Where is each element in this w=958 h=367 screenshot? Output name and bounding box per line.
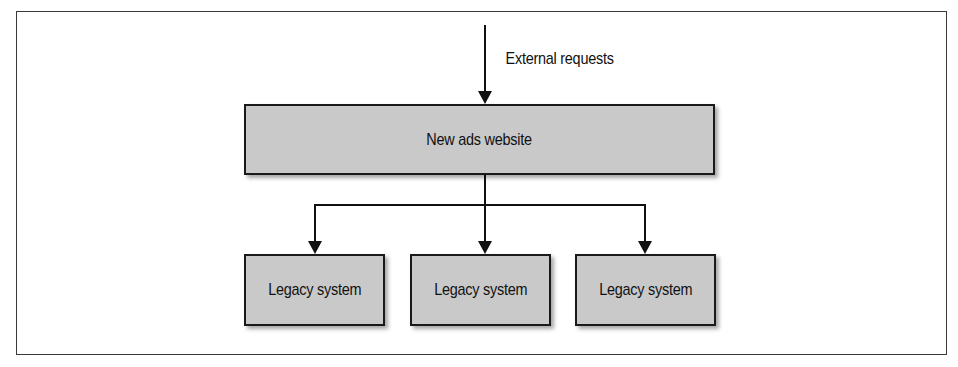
arrowhead-icon — [478, 241, 492, 254]
external-requests-text: External requests — [506, 49, 614, 69]
external-requests-label: External requests — [496, 49, 623, 69]
legacy-system-box-1: Legacy system — [244, 254, 385, 326]
main-box-label: New ads website — [427, 130, 532, 150]
arrowhead-icon — [308, 241, 322, 254]
legacy-box-label: Legacy system — [434, 280, 527, 300]
legacy-box-label: Legacy system — [599, 280, 692, 300]
legacy-system-box-3: Legacy system — [575, 254, 716, 326]
legacy-box-label: Legacy system — [268, 280, 361, 300]
arrowhead-icon — [478, 91, 492, 104]
arrowhead-icon — [638, 241, 652, 254]
new-ads-website-box: New ads website — [244, 104, 715, 175]
legacy-system-box-2: Legacy system — [410, 254, 551, 326]
